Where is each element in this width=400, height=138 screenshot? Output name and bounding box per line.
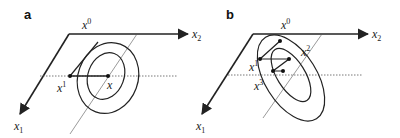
point-x4	[281, 69, 285, 73]
point-x0	[278, 39, 282, 43]
axis-label-x1: x1	[195, 119, 205, 135]
panel-label-b: b	[226, 7, 234, 22]
point-x3	[271, 69, 275, 73]
x1-axis	[202, 34, 253, 114]
search-path	[260, 41, 289, 71]
axis-label-x2: x2	[371, 27, 381, 43]
axis-label-x1: x1	[13, 119, 23, 135]
label-x-star: x	[106, 78, 113, 92]
label-x1: x1	[56, 80, 66, 95]
point-x1	[68, 74, 72, 78]
label-x2: x2	[300, 44, 310, 59]
x1-axis	[20, 34, 69, 114]
point-x1	[258, 57, 262, 61]
search-path-segment	[70, 42, 98, 76]
point-x2	[287, 57, 291, 61]
label-x0: x0	[81, 17, 91, 32]
diagonal-guide-line	[70, 34, 137, 134]
label-x3: x3	[253, 78, 263, 93]
panel-a: a x0 x1 x x1 x2	[13, 7, 201, 135]
axis-label-x2: x2	[191, 27, 201, 43]
diagonal-guide-line	[263, 34, 322, 118]
panel-label-a: a	[24, 7, 32, 22]
label-x0: x0	[280, 17, 290, 32]
panel-b: b x0 x1 x2 x3 x1 x2	[195, 7, 381, 135]
label-x1: x1	[248, 59, 258, 74]
optimization-diagram: a x0 x1 x x1 x2 b	[0, 0, 400, 138]
